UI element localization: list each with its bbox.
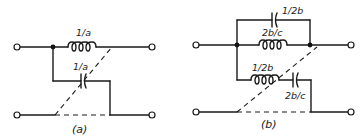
terminal: [149, 112, 155, 118]
inductor-label: 2b/c: [262, 27, 283, 38]
terminal: [193, 109, 199, 115]
terminal: [348, 109, 354, 115]
inductor-icon: [251, 75, 279, 84]
inductor-icon: [68, 42, 96, 51]
terminal: [149, 44, 155, 50]
junction-node: [308, 43, 313, 48]
capacitor-label: 1/2b: [282, 5, 303, 16]
terminal: [193, 42, 199, 48]
inductor-icon: [259, 40, 287, 49]
panel-caption: (a): [72, 123, 87, 136]
panel-caption: (b): [261, 118, 277, 131]
capacitor-label: 2b/c: [285, 90, 306, 101]
terminal: [14, 44, 20, 50]
panel-b: 2b/c 1/2b 1/2b 2b/c: [193, 5, 354, 131]
capacitor-label: 1/a: [73, 61, 88, 72]
terminal: [348, 42, 354, 48]
inductor-label: 1/a: [76, 27, 91, 38]
inductor-label: 1/2b: [252, 62, 273, 73]
terminal: [14, 112, 20, 118]
panel-a: 1/a 1/a (a): [14, 27, 155, 136]
lattice-network-diagram: 1/a 1/a (a) 2b/c: [0, 0, 363, 140]
